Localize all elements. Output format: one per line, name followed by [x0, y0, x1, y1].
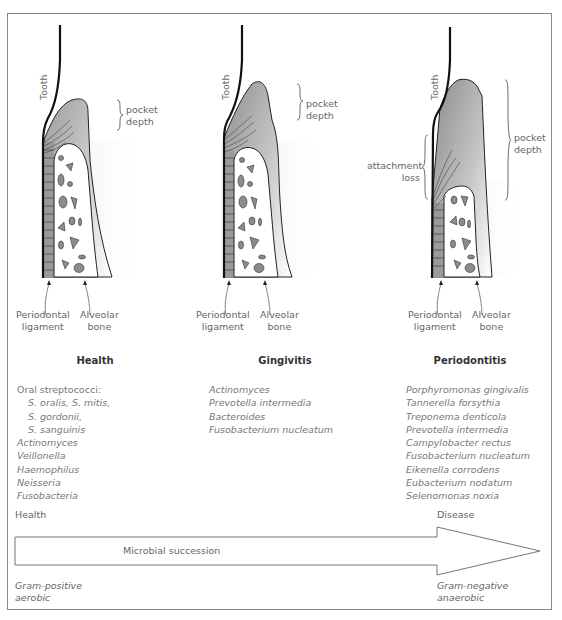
list-item: Veillonella — [17, 449, 110, 462]
periodontal-ligament-label: Periodontalligament — [196, 309, 250, 333]
health-bacteria-list: Oral streptococci: S. oralis, S. mitis, … — [17, 383, 110, 503]
gingivitis-title: Gingivitis — [190, 355, 380, 366]
list-item: Fusobacteria — [17, 489, 110, 502]
health-title: Health — [0, 355, 190, 366]
list-item: S. gordonii, — [17, 410, 110, 423]
alveolar-bone-label: Alveolarbone — [472, 309, 511, 333]
periodontitis-title: Periodontitis — [385, 355, 555, 366]
panel-gingivitis: Tooth pocketdepth Periodontalligament Al… — [180, 0, 370, 340]
list-item: Neisseria — [17, 476, 110, 489]
list-item: Campylobacter rectus — [406, 436, 530, 449]
list-item: Oral streptococci: — [17, 383, 110, 396]
list-item: Actinomyces — [209, 383, 333, 396]
list-item: S. sanguinis — [17, 423, 110, 436]
list-item: Fusobacterium nucleatum — [209, 423, 333, 436]
list-item: Treponema denticola — [406, 410, 530, 423]
alveolar-bone-label: Alveolarbone — [80, 309, 119, 333]
list-item: Bacteroides — [209, 410, 333, 423]
periodontal-ligament-label: Periodontalligament — [16, 309, 70, 333]
alveolar-bone-label: Alveolarbone — [260, 309, 299, 333]
gram-positive-label: Gram-positiveaerobic — [15, 580, 82, 604]
panel-periodontitis: Tooth pocketdepth attachmentloss Periodo… — [370, 0, 560, 340]
arrow-label: Microbial succession — [123, 545, 220, 557]
panel-health: Tooth pocketdepth Periodontalligament Al… — [0, 0, 190, 340]
list-item: Tannerella forsythia — [406, 396, 530, 409]
list-item: S. oralis, S. mitis, — [17, 396, 110, 409]
gram-negative-label: Gram-negativeanaerobic — [437, 580, 508, 604]
list-item: Porphyromonas gingivalis — [406, 383, 530, 396]
health-tooth-illustration — [0, 0, 190, 340]
list-item: Prevotella intermedia — [209, 396, 333, 409]
tooth-label: Tooth — [220, 74, 231, 100]
list-item: Eubacterium nodatum — [406, 476, 530, 489]
periodontal-ligament-label: Periodontalligament — [408, 309, 462, 333]
tooth-label: Tooth — [38, 74, 49, 100]
gingivitis-bacteria-list: Actinomyces Prevotella intermedia Bacter… — [209, 383, 333, 436]
periodontitis-bacteria-list: Porphyromonas gingivalis Tannerella fors… — [406, 383, 530, 503]
list-item: Actinomyces — [17, 436, 110, 449]
list-item: Eikenella corrodens — [406, 463, 530, 476]
pocket-depth-label: pocketdepth — [306, 98, 338, 122]
tooth-label: Tooth — [429, 74, 440, 100]
list-item: Haemophilus — [17, 463, 110, 476]
gingivitis-tooth-illustration — [180, 0, 370, 340]
list-item: Prevotella intermedia — [406, 423, 530, 436]
list-item: Fusobacterium nucleatum — [406, 449, 530, 462]
attachment-loss-label: attachmentloss — [367, 160, 420, 184]
microbial-succession-arrow — [0, 520, 562, 580]
pocket-depth-label: pocketdepth — [126, 104, 158, 128]
list-item: Selenomonas noxia — [406, 489, 530, 502]
pocket-depth-label: pocketdepth — [514, 132, 546, 156]
